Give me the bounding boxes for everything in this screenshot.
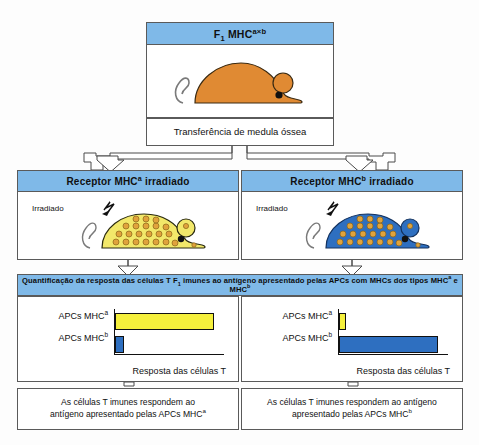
- left-conclusion-text: As células T imunes respondem aoantígeno…: [50, 397, 206, 420]
- left-chart-bar-mhc-a: [115, 313, 214, 330]
- f1-hybrid-mouse-icon: [165, 51, 317, 113]
- left-chart-category-label-1: APCs MHCb: [20, 333, 108, 343]
- left-conclusion-box: As células T imunes respondem aoantígeno…: [17, 388, 239, 430]
- left-chart-bar-mhc-b: [115, 336, 124, 353]
- f1-hybrid-illustration: [147, 45, 333, 118]
- right-conclusion-box: As células T imunes respondem ao antígen…: [241, 388, 463, 430]
- left-chart-plot-area: [114, 309, 224, 355]
- right-irradiated-label: Irradiado: [256, 204, 288, 213]
- left-response-chart: APCs MHCa APCs MHCb Resposta das células…: [18, 297, 238, 381]
- left-recipient-panel: Receptor MHCa irradiado Irradiado: [17, 170, 239, 260]
- right-recipient-illustration: Irradiado: [242, 192, 462, 260]
- quantification-band: Quantificação da resposta das células T …: [17, 274, 463, 296]
- right-chart-x-axis-label: Resposta das células T: [357, 366, 450, 376]
- left-recipient-title: Receptor MHCa irradiado: [66, 176, 189, 187]
- left-chart-category-label-0: APCs MHCa: [20, 311, 108, 321]
- left-recipient-illustration: Irradiado: [18, 192, 238, 260]
- right-response-chart-panel: APCs MHCa APCs MHCb Resposta das células…: [241, 296, 463, 382]
- right-chart-plot-area: [338, 309, 448, 355]
- right-chart-category-label-1: APCs MHCb: [244, 333, 332, 343]
- right-response-chart: APCs MHCa APCs MHCb Resposta das células…: [242, 297, 462, 381]
- f1-hybrid-panel: F1 MHCa×b: [146, 22, 334, 118]
- bone-marrow-transfer-caption: Transferência de medula óssea: [146, 118, 334, 146]
- right-chart-bar-mhc-a: [339, 313, 346, 330]
- left-response-chart-panel: APCs MHCa APCs MHCb Resposta das células…: [17, 296, 239, 382]
- right-irradiated-mouse-icon: [298, 196, 448, 258]
- figure-canvas: F1 MHCa×b Transferência de medula óssea …: [0, 0, 479, 445]
- right-chart-category-label-0: APCs MHCa: [244, 311, 332, 321]
- right-chart-bar-mhc-b: [339, 336, 438, 353]
- right-recipient-title: Receptor MHCb irradiado: [290, 176, 413, 187]
- left-recipient-header: Receptor MHCa irradiado: [18, 171, 238, 192]
- f1-hybrid-title: F1 MHCa×b: [214, 28, 267, 40]
- f1-hybrid-header: F1 MHCa×b: [147, 23, 333, 45]
- quantification-text: Quantificação da resposta das células T …: [22, 276, 458, 294]
- left-chart-x-axis-label: Resposta das células T: [133, 366, 226, 376]
- left-irradiated-mouse-icon: [74, 196, 224, 258]
- right-conclusion-text: As células T imunes respondem ao antígen…: [267, 397, 437, 420]
- right-recipient-panel: Receptor MHCb irradiado Irradiado: [241, 170, 463, 260]
- right-recipient-header: Receptor MHCb irradiado: [242, 171, 462, 192]
- left-irradiated-label: Irradiado: [32, 204, 64, 213]
